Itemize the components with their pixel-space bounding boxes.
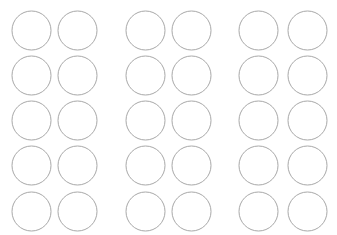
circle-grid-canvas — [0, 0, 337, 235]
circle-grid-sheet — [0, 0, 337, 235]
